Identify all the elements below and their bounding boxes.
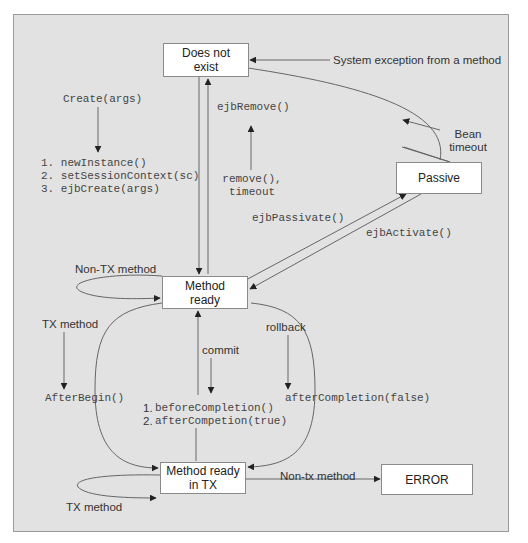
state-method-ready-in-tx: Method ready in TX: [160, 462, 246, 494]
state-method-ready: Method ready: [162, 276, 248, 309]
label-ejb-remove: ejbRemove(): [217, 101, 290, 114]
label-ejb-activate: ejbActivate(): [366, 227, 452, 240]
label-bean-timeout-word: timeout: [449, 141, 487, 153]
label-after-completion-false: afterCompletion(false): [285, 392, 430, 405]
label-create-step-3: 3. ejbCreate(args): [41, 183, 160, 196]
label-create-step-1: 1. newInstance(): [41, 157, 147, 170]
label-bean: Bean: [455, 128, 482, 140]
label-tx-method-top: TX method: [42, 318, 98, 331]
label-bean-timeout: Beantimeout: [448, 128, 488, 154]
label-ejb-passivate: ejbPassivate(): [252, 212, 344, 225]
label-before-completion: beforeCompletion(): [155, 402, 274, 415]
label-commit-step-2-num: 2.: [143, 415, 153, 428]
state-passive: Passive: [396, 162, 482, 194]
label-system-exception: System exception from a method: [333, 54, 501, 67]
label-timeout: timeout: [229, 186, 275, 198]
label-create-step-2: 2. setSessionContext(sc): [41, 170, 199, 183]
label-non-tx-method: Non-TX method: [75, 263, 156, 276]
label-remove: remove(),: [222, 173, 281, 185]
label-rollback: rollback: [266, 321, 306, 334]
state-does-not-exist: Does not exist: [163, 43, 249, 77]
state-method-ready-label: Method ready: [185, 279, 225, 307]
label-create-args: Create(args): [63, 93, 142, 106]
label-after-completion-true: afterCompetion(true): [155, 415, 287, 428]
state-passive-label: Passive: [418, 171, 460, 185]
label-tx-method-bottom: TX method: [66, 501, 122, 514]
state-error-label: ERROR: [405, 473, 448, 487]
label-remove-timeout: remove(),timeout: [220, 173, 284, 199]
label-non-tx-method-lower: Non-tx method: [280, 470, 355, 483]
label-commit: commit: [202, 344, 239, 357]
state-error: ERROR: [381, 464, 473, 495]
label-commit-step-1-num: 1.: [143, 402, 153, 415]
state-method-ready-in-tx-label: Method ready in TX: [166, 464, 239, 492]
label-after-begin: AfterBegin(): [45, 392, 124, 405]
state-does-not-exist-label: Does not exist: [182, 46, 230, 74]
